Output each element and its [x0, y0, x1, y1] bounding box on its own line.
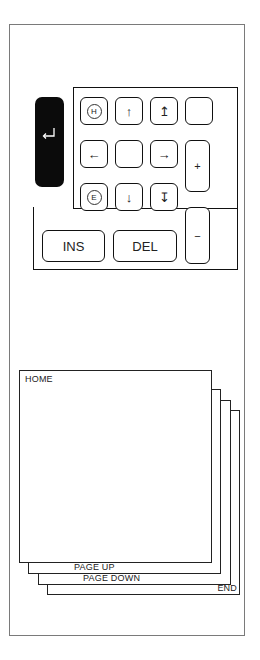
key-up[interactable]: ↑ — [115, 97, 143, 125]
arrow-right-icon: → — [158, 147, 171, 162]
arrow-up-bar-icon: ↥ — [159, 104, 170, 119]
key-left[interactable]: ← — [80, 140, 108, 168]
key-center[interactable] — [115, 140, 143, 168]
key-plus[interactable]: + — [185, 140, 210, 192]
circled-e-icon: E — [87, 190, 102, 205]
key-minus[interactable]: − — [185, 207, 210, 264]
key-del[interactable]: DEL — [113, 230, 177, 262]
enter-key[interactable] — [35, 97, 64, 187]
key-page-up[interactable]: ↥ — [150, 97, 178, 125]
key-home[interactable]: H — [80, 97, 108, 125]
page-up-label: PAGE UP — [74, 562, 115, 572]
key-blank-top-right[interactable] — [185, 97, 213, 125]
circled-h-icon: H — [87, 104, 102, 119]
arrow-up-icon: ↑ — [126, 104, 133, 119]
page-down-label: PAGE DOWN — [83, 573, 140, 583]
page-home: HOME — [19, 370, 212, 563]
key-end[interactable]: E — [80, 183, 108, 211]
plus-icon: + — [194, 160, 200, 172]
minus-icon: − — [194, 230, 200, 242]
arrow-down-icon: ↓ — [126, 190, 133, 205]
page-home-label: HOME — [25, 374, 53, 384]
arrow-left-icon: ← — [88, 147, 101, 162]
key-page-down[interactable]: ↧ — [150, 183, 178, 211]
key-down[interactable]: ↓ — [115, 183, 143, 211]
key-ins[interactable]: INS — [42, 230, 105, 262]
enter-return-icon — [40, 127, 58, 141]
arrow-down-bar-icon: ↧ — [159, 190, 170, 205]
key-right[interactable]: → — [150, 140, 178, 168]
